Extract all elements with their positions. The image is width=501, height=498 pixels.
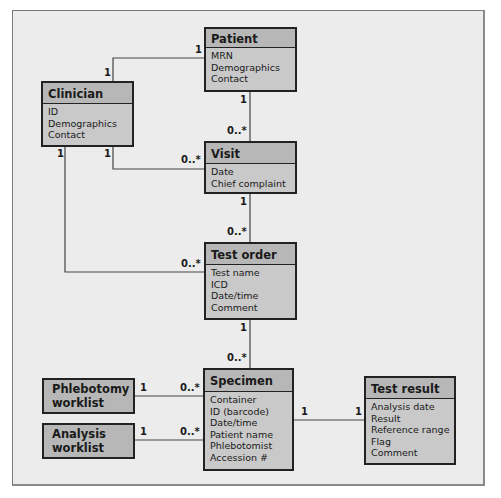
entity-specimen: Specimen Container ID (barcode) Date/tim… bbox=[203, 368, 294, 471]
entity-test-order: Test order Test name ICD Date/time Comme… bbox=[204, 242, 297, 320]
entity-patient: Patient MRN Demographics Contact bbox=[204, 27, 297, 92]
entity-title-line2: worklist bbox=[52, 396, 125, 410]
attribute: Comment bbox=[211, 302, 290, 314]
attribute: Demographics bbox=[48, 118, 127, 130]
multiplicity-label: 0..* bbox=[227, 125, 247, 136]
attribute: Contact bbox=[48, 129, 127, 141]
multiplicity-label: 0..* bbox=[227, 226, 247, 237]
multiplicity-label: 1 bbox=[57, 148, 64, 159]
entity-test-result: Test result Analysis date Result Referen… bbox=[364, 376, 456, 465]
entity-title: Specimen bbox=[205, 370, 292, 392]
attribute: ID (barcode) bbox=[210, 406, 287, 418]
entity-title-line1: Phlebotomy bbox=[52, 382, 125, 396]
entity-clinician: Clinician ID Demographics Contact bbox=[41, 81, 134, 147]
line-clinician-patient bbox=[113, 58, 204, 81]
entity-title: Patient bbox=[206, 29, 295, 48]
attribute: ID bbox=[48, 106, 127, 118]
multiplicity-label: 1 bbox=[140, 382, 147, 393]
multiplicity-label: 0..* bbox=[180, 382, 200, 393]
multiplicity-label: 0..* bbox=[180, 426, 200, 437]
entity-title: Visit bbox=[206, 143, 295, 164]
multiplicity-label: 1 bbox=[104, 148, 111, 159]
attribute: Flag bbox=[371, 436, 449, 448]
multiplicity-label: 1 bbox=[104, 67, 111, 78]
attribute: Date bbox=[211, 166, 290, 178]
multiplicity-label: 1 bbox=[301, 406, 308, 417]
entity-title: Test result bbox=[366, 378, 454, 399]
entity-title-line2: worklist bbox=[52, 441, 125, 455]
multiplicity-label: 1 bbox=[355, 406, 362, 417]
attribute: MRN bbox=[211, 50, 290, 62]
attribute: Phlebotomist bbox=[210, 440, 287, 452]
entity-analysis-worklist: Analysis worklist bbox=[42, 423, 135, 459]
entity-visit: Visit Date Chief complaint bbox=[204, 141, 297, 194]
multiplicity-label: 1 bbox=[240, 322, 247, 333]
multiplicity-label: 1 bbox=[140, 426, 147, 437]
multiplicity-label: 0..* bbox=[181, 154, 201, 165]
attribute: Date/time bbox=[211, 290, 290, 302]
entity-title: Clinician bbox=[43, 83, 132, 104]
attribute: Container bbox=[210, 394, 287, 406]
attribute: Date/time bbox=[210, 417, 287, 429]
multiplicity-label: 0..* bbox=[181, 258, 201, 269]
entity-title: Test order bbox=[206, 244, 295, 265]
multiplicity-label: 1 bbox=[240, 196, 247, 207]
multiplicity-label: 1 bbox=[240, 94, 247, 105]
attribute: Chief complaint bbox=[211, 178, 290, 190]
attribute: Analysis date bbox=[371, 401, 449, 413]
attribute: Comment bbox=[371, 447, 449, 459]
multiplicity-label: 0..* bbox=[227, 352, 247, 363]
attribute: Test name bbox=[211, 267, 290, 279]
attribute: Contact bbox=[211, 73, 290, 85]
multiplicity-label: 1 bbox=[195, 44, 202, 55]
attribute: Accession # bbox=[210, 452, 287, 464]
attribute: Result bbox=[371, 413, 449, 425]
entity-title-line1: Analysis bbox=[52, 427, 125, 441]
attribute: Demographics bbox=[211, 62, 290, 74]
entity-phlebotomy-worklist: Phlebotomy worklist bbox=[42, 378, 135, 414]
attribute: Patient name bbox=[210, 429, 287, 441]
attribute: ICD bbox=[211, 279, 290, 291]
attribute: Reference range bbox=[371, 424, 449, 436]
